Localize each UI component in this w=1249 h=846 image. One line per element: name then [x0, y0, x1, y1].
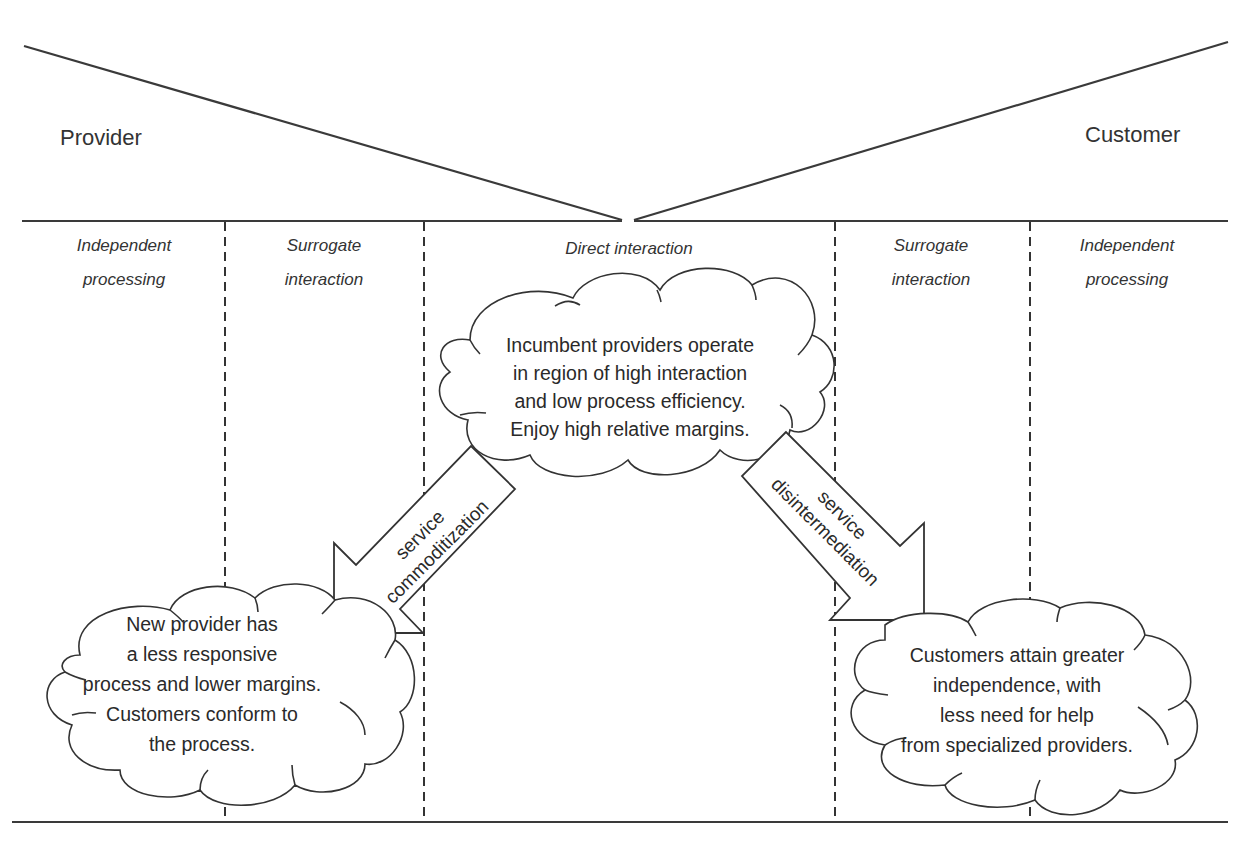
svg-text:interaction: interaction [285, 270, 363, 289]
svg-text:Direct interaction: Direct interaction [565, 239, 693, 258]
provider-label: Provider [60, 125, 142, 150]
region-label-customer-independent: Independent processing [1080, 236, 1176, 289]
svg-text:interaction: interaction [892, 270, 970, 289]
customer-label: Customer [1085, 122, 1180, 147]
service-disintermediation-arrow: service disintermediation [742, 432, 924, 620]
svg-text:Enjoy high relative margins.: Enjoy high relative margins. [510, 418, 750, 440]
svg-text:process and lower margins.: process and lower margins. [83, 673, 321, 695]
region-label-direct-interaction: Direct interaction [565, 239, 693, 258]
svg-text:New provider has: New provider has [126, 613, 278, 635]
region-label-provider-independent: Independent processing [77, 236, 173, 289]
svg-text:in region of high interaction: in region of high interaction [513, 362, 747, 384]
svg-text:Independent: Independent [77, 236, 173, 255]
svg-text:processing: processing [82, 270, 166, 289]
svg-text:Customers attain greater: Customers attain greater [910, 644, 1125, 666]
svg-text:and low process efficiency.: and low process efficiency. [514, 390, 745, 412]
customers-independence-cloud: Customers attain greater independence, w… [851, 599, 1197, 815]
svg-text:Customers conform to: Customers conform to [106, 703, 298, 725]
svg-text:a less responsive: a less responsive [127, 643, 278, 665]
svg-text:Surrogate: Surrogate [287, 236, 362, 255]
svg-text:independence, with: independence, with [933, 674, 1101, 696]
region-label-provider-surrogate: Surrogate interaction [285, 236, 363, 289]
svg-text:the process.: the process. [149, 733, 255, 755]
new-provider-cloud: New provider has a less responsive proce… [47, 584, 414, 805]
svg-text:processing: processing [1085, 270, 1169, 289]
region-label-customer-surrogate: Surrogate interaction [892, 236, 970, 289]
svg-text:from specialized providers.: from specialized providers. [901, 734, 1133, 756]
svg-text:less need for help: less need for help [940, 704, 1094, 726]
svg-text:Surrogate: Surrogate [894, 236, 969, 255]
svg-text:Incumbent providers operate: Incumbent providers operate [506, 334, 754, 356]
service-process-diagram: Provider Customer Independent processing… [0, 0, 1249, 846]
svg-text:Independent: Independent [1080, 236, 1176, 255]
